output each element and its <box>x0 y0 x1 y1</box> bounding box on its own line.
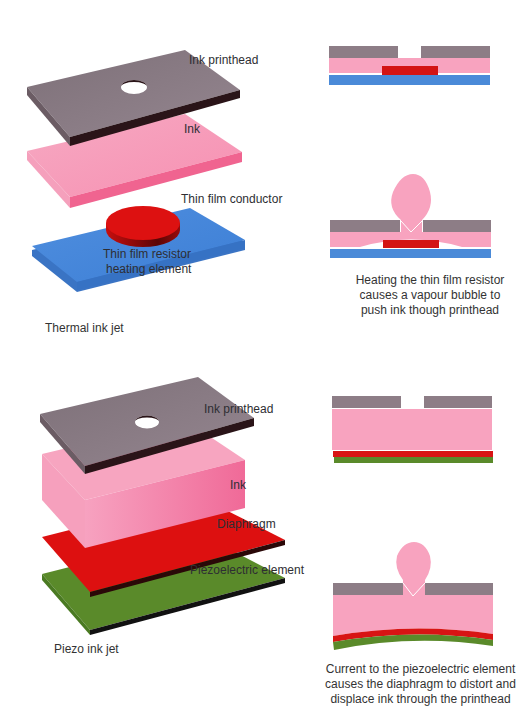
label-thermal-conductor: Thin film conductor <box>181 192 282 206</box>
label-piezo-printhead: Ink printhead <box>204 402 273 416</box>
label-thermal-printhead: Ink printhead <box>189 53 258 67</box>
inkjet-diagram-art <box>0 0 531 728</box>
caption-piezo-line3: displace ink through the printhead <box>310 692 531 707</box>
caption-thermal-line1: Heating the thin film resistor <box>330 273 530 288</box>
caption-piezo-line2: causes the diaphragm to distort and <box>310 677 531 692</box>
piezo-section-idle <box>332 396 493 463</box>
label-piezo-ink: Ink <box>230 478 246 492</box>
caption-thermal-line2: causes a vapour bubble to <box>330 288 530 303</box>
caption-thermal-line3: push ink though printhead <box>330 303 530 318</box>
title-thermal-ink-jet: Thermal ink jet <box>45 321 124 335</box>
piezo-section-firing <box>333 542 493 650</box>
thermal-resistor-disc <box>106 206 180 247</box>
caption-thermal: Heating the thin film resistor causes a … <box>330 273 530 318</box>
thermal-section-firing <box>330 174 491 258</box>
label-thermal-resistor-line1: Thin film resistor <box>103 247 191 261</box>
label-thermal-resistor-line2: heating element <box>106 262 191 276</box>
label-piezo-diaphragm: Diaphragm <box>217 517 276 531</box>
caption-piezo-line1: Current to the piezoelectric element <box>310 662 531 677</box>
label-thermal-ink: Ink <box>184 122 200 136</box>
label-piezo-element: Piezoelectric element <box>190 563 304 577</box>
title-piezo-ink-jet: Piezo ink jet <box>54 642 119 656</box>
caption-piezo: Current to the piezoelectric element cau… <box>310 662 531 707</box>
thermal-section-idle <box>329 46 490 85</box>
